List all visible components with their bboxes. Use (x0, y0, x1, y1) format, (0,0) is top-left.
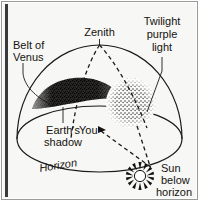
label-twilight-purple-light-line1: Twilight (144, 15, 181, 27)
twilight-dome-figure: Belt of Venus Zenith Twilight purple lig… (0, 0, 199, 201)
label-belt-of-venus-line2: Venus (13, 51, 44, 63)
label-twilight-purple-light-line2: purple (147, 28, 178, 40)
label-earths-shadow-line2: shadow (44, 136, 82, 148)
label-earths-shadow-line1: Earth's (46, 124, 80, 136)
label-belt-of-venus-line1: Belt of (13, 39, 45, 51)
left-edge-rule (5, 4, 8, 197)
label-sun-below-horizon-line3: horizon (156, 186, 192, 198)
label-you: You (79, 124, 98, 136)
label-zenith: Zenith (84, 26, 115, 38)
label-twilight-purple-light-line3: light (152, 41, 172, 53)
label-sun-below-horizon-line1: Sun (161, 162, 181, 174)
twilight-purple-light-stipple (106, 78, 156, 128)
label-sun-below-horizon-line2: below (161, 174, 190, 186)
